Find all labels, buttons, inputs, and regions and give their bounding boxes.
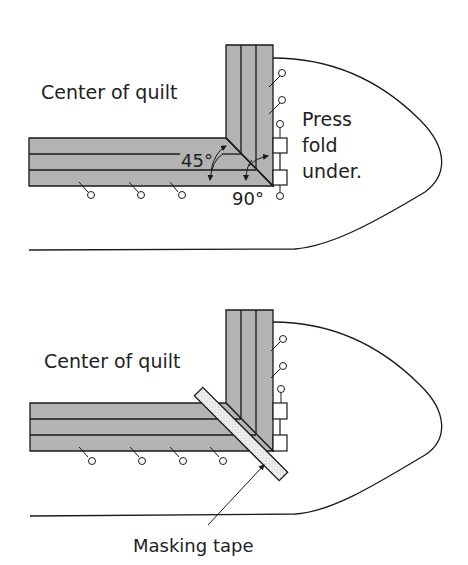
angle-90-label: 90° xyxy=(232,188,264,209)
press-fold-note-line2: fold xyxy=(302,134,338,156)
top-diagram: Center of quilt 45° 90° Press fold under… xyxy=(29,45,442,250)
press-fold-note-line1: Press xyxy=(302,108,352,130)
callout-arrow xyxy=(208,465,264,525)
angle-45-label: 45° xyxy=(181,150,213,171)
bottom-diagram: Center of quilt Masking tape xyxy=(30,310,442,556)
center-of-quilt-label: Center of quilt xyxy=(41,81,177,103)
press-fold-note-line3: under. xyxy=(302,160,362,182)
mitered-corner-diagram: Center of quilt 45° 90° Press fold under… xyxy=(0,0,468,565)
center-of-quilt-label: Center of quilt xyxy=(44,350,180,372)
masking-tape-label: Masking tape xyxy=(133,535,254,556)
